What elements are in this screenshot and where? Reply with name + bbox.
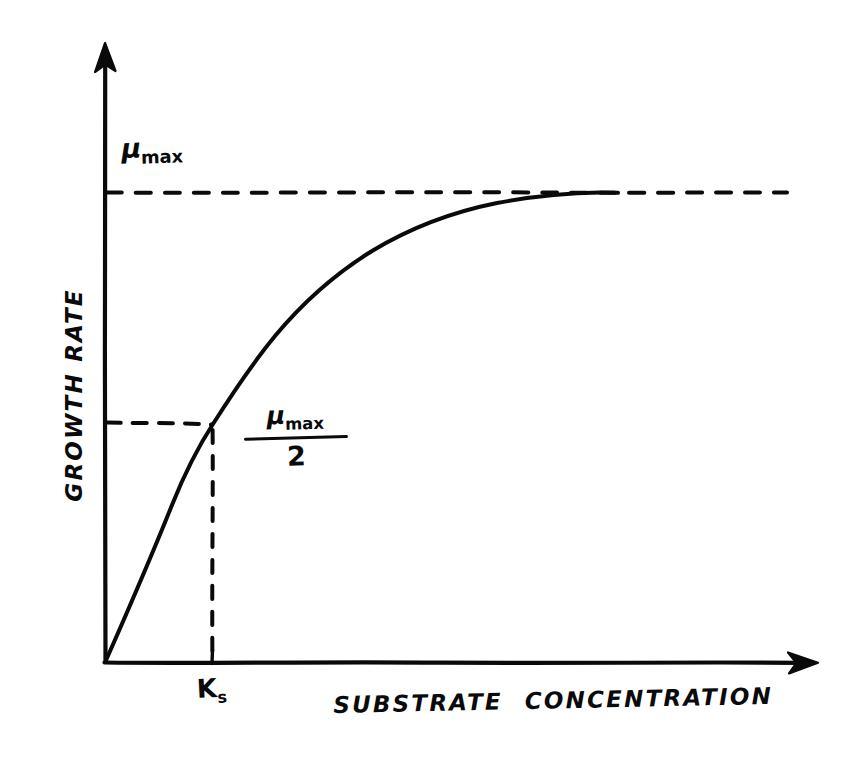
monod-curve-group: [106, 192, 619, 661]
half-max-mu-symbol: μ: [266, 401, 285, 430]
half-max-mu-subscript: max: [285, 414, 324, 434]
mu-max-subscript: max: [141, 145, 184, 167]
y-axis-title: GROWTH RATE: [61, 285, 87, 505]
x-axis-title-spacer: [503, 688, 526, 714]
mu-max-symbol: μ: [121, 132, 141, 164]
monod-growth-curve-figure: μmax μmax 2 Ks SUBSTRATE CONCENTRATION G…: [0, 0, 854, 767]
half-max-dashed-line: [107, 423, 212, 425]
ks-symbol: K: [196, 673, 218, 704]
growth-rate-curve: [106, 192, 619, 661]
half-max-denominator: 2: [237, 440, 356, 470]
axes-group: [95, 43, 818, 674]
chart-canvas: [0, 0, 854, 767]
x-axis-title-part2: CONCENTRATION: [525, 683, 774, 714]
x-axis-title-part1: SUBSTRATE: [333, 688, 503, 718]
half-max-fraction-label: μmax 2: [236, 401, 356, 471]
ks-label: Ks: [196, 672, 227, 708]
ks-subscript: s: [217, 688, 228, 707]
half-max-numerator: μmax: [236, 401, 355, 437]
mu-max-label: μmax: [121, 131, 184, 169]
ks-dashed-dropline: [212, 430, 213, 660]
mu-max-asymptote-dashed-line: [107, 192, 787, 193]
y-axis-line: [105, 62, 106, 662]
x-axis-line: [105, 662, 801, 663]
guide-lines-group: [107, 192, 787, 660]
